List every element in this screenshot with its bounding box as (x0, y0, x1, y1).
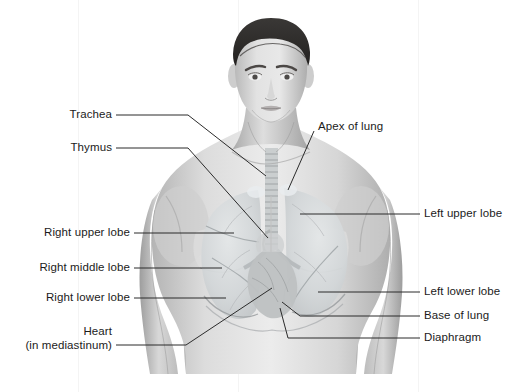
anatomy-figure: Trachea Thymus Right upper lobe Right mi… (0, 0, 521, 392)
label-diaphragm: Diaphragm (424, 331, 481, 345)
label-trachea-text: Trachea (70, 108, 112, 120)
label-heart: Heart (in mediastinum) (0, 325, 112, 352)
label-heart-text: Heart (0, 325, 112, 339)
label-right-upper-lobe-text: Right upper lobe (44, 226, 130, 238)
label-base-of-lung-text: Base of lung (424, 309, 489, 321)
label-left-lower-lobe: Left lower lobe (424, 285, 500, 299)
label-left-lower-lobe-text: Left lower lobe (424, 285, 500, 297)
label-heart-subtext: (in mediastinum) (0, 339, 112, 353)
label-apex-of-lung: Apex of lung (318, 120, 383, 134)
label-right-lower-lobe: Right lower lobe (0, 291, 130, 305)
label-left-upper-lobe-text: Left upper lobe (424, 207, 502, 219)
label-right-lower-lobe-text: Right lower lobe (46, 291, 130, 303)
label-base-of-lung: Base of lung (424, 309, 489, 323)
apex-left (279, 184, 297, 196)
label-apex-of-lung-text: Apex of lung (318, 120, 383, 132)
label-left-upper-lobe: Left upper lobe (424, 207, 502, 221)
label-right-middle-lobe: Right middle lobe (0, 261, 130, 275)
label-diaphragm-text: Diaphragm (424, 331, 481, 343)
label-trachea: Trachea (0, 108, 112, 122)
label-right-upper-lobe: Right upper lobe (0, 226, 130, 240)
label-thymus-text: Thymus (71, 141, 113, 153)
label-right-middle-lobe-text: Right middle lobe (39, 261, 130, 273)
apex-right (247, 186, 265, 198)
label-thymus: Thymus (0, 141, 112, 155)
